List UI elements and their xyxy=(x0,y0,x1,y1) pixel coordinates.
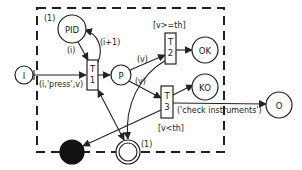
transition-t1: T 1 xyxy=(87,60,98,90)
place-ok: OK xyxy=(192,37,218,63)
place-ok-label: OK xyxy=(199,46,212,56)
place-pid-label: PID xyxy=(65,25,80,35)
arc-label-p-to-t2: (v) xyxy=(137,55,148,64)
place-end-marking: (1) xyxy=(141,140,152,149)
transition-t2-label-2: 2 xyxy=(168,48,173,58)
transition-t1-label-1: T xyxy=(89,64,96,74)
place-start xyxy=(60,140,84,164)
arc-label-pid-to-t1: (i) xyxy=(67,46,75,55)
transition-t2-guard: [v>=th] xyxy=(153,21,186,30)
transition-t1-label-2: 1 xyxy=(90,75,95,85)
place-o: O xyxy=(266,92,292,118)
place-ko: KO xyxy=(192,74,218,100)
transition-t3-label-2: 3 xyxy=(164,102,169,112)
arc-t3-to-o xyxy=(173,103,266,104)
arc-t1-to-pid xyxy=(85,30,100,62)
place-i-label: I xyxy=(23,71,26,81)
place-o-label: O xyxy=(276,101,283,111)
petri-net-diagram: I PID (1) P OK KO O (1) T 1 T 2 [v>=th] xyxy=(0,0,302,170)
arc-label-p-to-t3: (v) xyxy=(135,77,146,86)
arc-label-i-to-t1: (i,'press',v) xyxy=(39,80,83,89)
place-p: P xyxy=(111,65,131,85)
arc-pid-to-t1 xyxy=(78,42,88,60)
place-pid: PID (1) xyxy=(44,14,86,43)
place-ko-label: KO xyxy=(199,83,211,93)
arc-label-t3-to-o: ('check instruments') xyxy=(177,106,262,115)
place-i: I xyxy=(15,66,33,84)
place-end-inner-circle xyxy=(119,143,137,161)
transition-t2-label-1: T xyxy=(167,37,174,47)
transition-t3-guard: [v<th] xyxy=(158,124,184,133)
arc-t3-to-ko xyxy=(173,85,193,95)
transition-t3-label-1: T xyxy=(163,91,170,101)
place-p-label: P xyxy=(118,71,123,81)
place-pid-marking: (1) xyxy=(44,14,55,23)
arc-label-t1-to-pid: (i+1) xyxy=(100,38,120,47)
place-start-filled-circle xyxy=(60,140,84,164)
